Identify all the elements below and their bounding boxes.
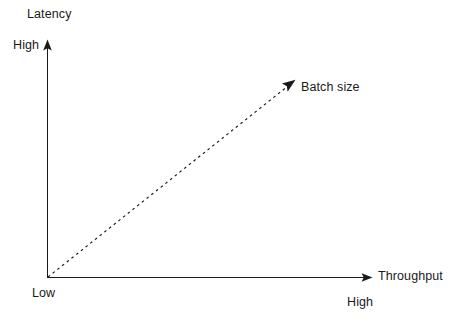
series-callout-label: Batch size: [301, 81, 360, 94]
x-axis-group: [48, 273, 373, 282]
origin-low-tick-label: Low: [32, 287, 55, 300]
x-axis-title: Throughput: [378, 270, 443, 283]
x-axis-high-tick-label: High: [347, 296, 373, 309]
y-axis-high-tick-label: High: [13, 39, 39, 52]
y-axis-group: [43, 40, 52, 278]
y-axis-title: Latency: [27, 8, 71, 21]
chart-canvas: Latency High Low Throughput High Batch s…: [0, 0, 452, 328]
series-batch-size-line: [48, 86, 288, 277]
series-batch-size: [48, 80, 296, 277]
arrow-diagonal-up-right-icon: [282, 80, 296, 92]
